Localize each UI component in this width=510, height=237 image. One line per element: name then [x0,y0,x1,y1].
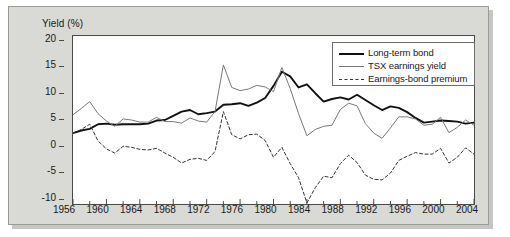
y-tick-label: -10 [26,192,56,203]
y-tick-label: 0 [26,139,56,150]
legend-item-earnings-bond-premium: Earnings-bond premium [338,72,470,85]
y-tick-mark [59,40,64,41]
y-tick-label: 20 [26,33,56,44]
chart-panel: Yield (%) 20151050-5-10 1956196019641968… [8,6,489,225]
y-axis-label: Yield (%) [42,18,83,29]
legend-label: TSX earnings yield [365,60,446,71]
x-tick-label: 2004 [447,204,487,215]
legend-item-tsx-earnings-yield: TSX earnings yield [338,59,470,72]
y-tick-label: 10 [26,86,56,97]
y-tick-mark [59,172,64,173]
series-line-earnings-bond-premium [73,112,474,203]
legend-swatch-line-icon [338,61,365,71]
legend-label: Long-term bond [365,47,434,58]
y-tick-label: -5 [26,165,56,176]
legend-item-long-term-bond: Long-term bond [338,46,470,59]
y-tick-mark [59,119,64,120]
y-tick-mark [59,146,64,147]
legend-label: Earnings-bond premium [365,73,467,84]
y-tick-mark [59,93,64,94]
chart-legend: Long-term bond TSX earnings yield Earnin… [332,42,475,86]
legend-swatch-line-icon [338,48,365,58]
y-tick-label: 5 [26,112,56,123]
y-tick-mark [59,199,64,200]
y-tick-mark [59,66,64,67]
chart-figure: Yield (%) 20151050-5-10 1956196019641968… [0,0,510,237]
legend-swatch-dashed-line-icon [338,74,365,84]
y-tick-label: 15 [26,59,56,70]
